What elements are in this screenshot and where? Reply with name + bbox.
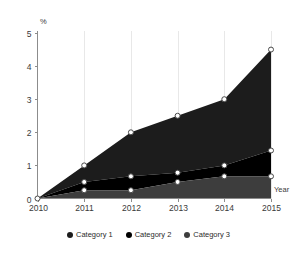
x-tick-label-2014: 2014 (215, 203, 234, 213)
x-tick-label-2011: 2011 (75, 203, 94, 213)
marker-category-3-2011 (82, 188, 87, 193)
legend-item-category-3[interactable]: Category 3 (184, 231, 230, 239)
x-tick-label-2013: 2013 (169, 203, 188, 213)
legend-circle-icon (67, 232, 73, 238)
legend-item-category-2[interactable]: Category 2 (126, 231, 172, 239)
marker-category-1-2011 (82, 163, 87, 168)
marker-category-2-2012 (128, 174, 133, 179)
marker-category-3-2014 (222, 174, 227, 179)
marker-category-3-2010 (35, 196, 40, 201)
marker-category-3-2015 (269, 174, 274, 179)
marker-category-2-2011 (82, 179, 87, 184)
y-tick-label-1: 1 (27, 161, 32, 171)
legend-circle-icon (126, 232, 132, 238)
marker-category-1-2013 (175, 113, 180, 118)
chart-legend: Category 1Category 2Category 3 (0, 231, 297, 239)
legend-item-category-1[interactable]: Category 1 (67, 231, 113, 239)
x-tick-label-2012: 2012 (122, 203, 141, 213)
legend-item-label: Category 2 (135, 231, 172, 239)
y-tick-label-3: 3 (27, 95, 32, 105)
legend-item-label: Category 3 (193, 231, 230, 239)
marker-category-1-2014 (222, 97, 227, 102)
x-tick-label-2010: 2010 (29, 203, 48, 213)
marker-category-2-2014 (222, 163, 227, 168)
y-tick-label-4: 4 (27, 62, 32, 72)
y-tick-label-5: 5 (27, 29, 32, 39)
marker-category-1-2015 (269, 47, 274, 52)
legend-circle-icon (184, 232, 190, 238)
y-axis-label: % (40, 17, 47, 26)
marker-category-1-2012 (128, 130, 133, 135)
marker-category-3-2012 (128, 188, 133, 193)
stacked-area-chart: 012345 201020112012201320142015 % Year C… (0, 0, 297, 256)
marker-category-3-2013 (175, 179, 180, 184)
chart-plot-area: 012345 201020112012201320142015 % Year (0, 0, 297, 256)
x-tick-label-2015: 2015 (262, 203, 281, 213)
marker-category-2-2015 (269, 148, 274, 153)
marker-category-2-2013 (175, 170, 180, 175)
y-tick-label-2: 2 (27, 128, 32, 138)
legend-item-label: Category 1 (76, 231, 113, 239)
x-axis-label: Year (274, 185, 290, 194)
